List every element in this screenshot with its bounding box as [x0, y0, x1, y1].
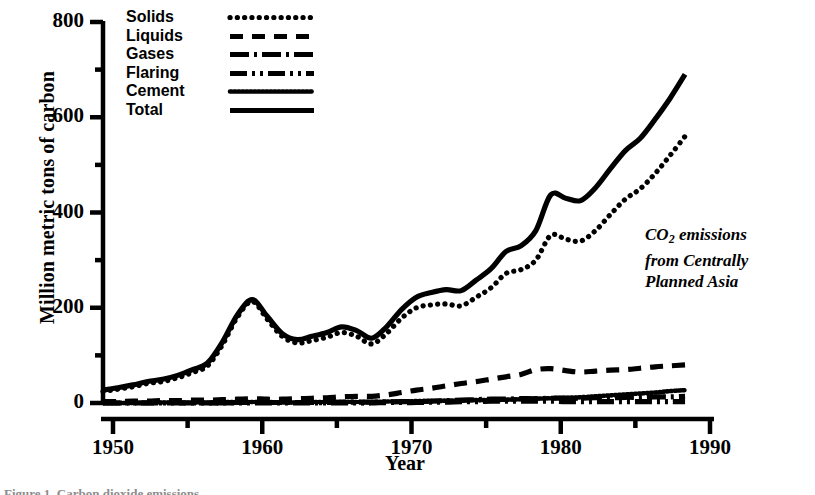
legend-item-cement[interactable]: Cement	[126, 82, 326, 101]
y-tick-label: 600	[12, 103, 84, 128]
legend-line-swatch-gases	[230, 51, 314, 58]
y-tick-label: 400	[12, 199, 84, 224]
legend-label: Solids	[126, 8, 174, 26]
legend-line-swatch-total	[230, 107, 314, 114]
legend-label: Total	[126, 101, 163, 119]
series-line-solids	[103, 136, 685, 391]
legend-label: Liquids	[126, 27, 183, 45]
legend-item-flaring[interactable]: Flaring	[126, 64, 326, 83]
series-line-total	[103, 74, 685, 390]
figure-co2-emissions-chart: Million metric tons of carbon Year 02004…	[0, 0, 815, 495]
annotation-emissions-text: emissions	[675, 225, 747, 244]
legend-label: Flaring	[126, 64, 179, 82]
chart-legend: SolidsLiquidsGasesFlaringCementTotal	[126, 8, 326, 119]
y-tick-label: 200	[12, 294, 84, 319]
legend-line-swatch-solids	[230, 14, 314, 21]
legend-label: Cement	[126, 82, 185, 100]
annotation-line-3: Planned Asia	[645, 272, 738, 291]
y-tick-label: 0	[12, 389, 84, 414]
figure-caption-fragment: Figure 1. Carbon dioxide emissions	[4, 486, 364, 495]
legend-item-solids[interactable]: Solids	[126, 8, 326, 27]
x-tick-label: 1980	[516, 435, 606, 460]
x-tick-label: 1960	[217, 435, 307, 460]
legend-label: Gases	[126, 45, 174, 63]
legend-item-total[interactable]: Total	[126, 101, 326, 120]
x-tick-label: 1970	[367, 435, 457, 460]
chart-annotation: CO2 emissions from Centrally Planned Asi…	[645, 224, 810, 292]
legend-item-gases[interactable]: Gases	[126, 45, 326, 64]
data-series	[103, 74, 685, 403]
legend-line-swatch-flaring	[230, 70, 314, 77]
annotation-line-1: CO2 emissions	[645, 225, 747, 244]
annotation-co-text: CO	[645, 225, 669, 244]
y-tick-label: 800	[12, 8, 84, 33]
legend-item-liquids[interactable]: Liquids	[126, 27, 326, 46]
legend-line-swatch-cement	[230, 88, 314, 95]
legend-line-swatch-liquids	[230, 33, 314, 40]
annotation-line-2: from Centrally	[645, 251, 748, 270]
x-tick-label: 1990	[665, 435, 755, 460]
x-tick-label: 1950	[68, 435, 158, 460]
